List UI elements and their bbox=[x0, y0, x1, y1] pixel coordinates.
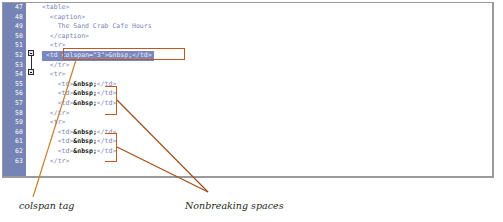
line-number: 55 bbox=[3, 80, 26, 90]
fold-marker-line-53[interactable] bbox=[28, 69, 34, 75]
code-line[interactable]: <td colspan="3">&nbsp;</td> bbox=[38, 51, 492, 61]
code-line-text-selected: <td colspan="3">&nbsp;</td> bbox=[42, 51, 154, 61]
code-line[interactable]: </tr> bbox=[38, 61, 492, 71]
code-line[interactable]: </tr> bbox=[38, 157, 492, 167]
fold-marker-line-51[interactable] bbox=[28, 50, 34, 56]
code-line[interactable]: </tr> bbox=[38, 109, 492, 119]
line-number: 57 bbox=[3, 99, 26, 109]
nbsp-entity: &nbsp; bbox=[73, 128, 96, 136]
line-number: 49 bbox=[3, 22, 26, 32]
line-number: 53 bbox=[3, 61, 26, 71]
line-number-gutter: 4748495051525354555657585960616263 bbox=[3, 3, 27, 176]
line-number: 50 bbox=[3, 32, 26, 42]
line-number: 51 bbox=[3, 41, 26, 51]
line-number: 54 bbox=[3, 70, 26, 80]
code-line[interactable]: The Sand Crab Cafe Hours bbox=[38, 22, 492, 32]
code-line[interactable]: <td>&nbsp;</td> bbox=[38, 137, 492, 147]
code-line[interactable]: <td>&nbsp;</td> bbox=[38, 128, 492, 138]
code-line[interactable]: <td>&nbsp;</td> bbox=[38, 89, 492, 99]
code-editor-panel: 4748495051525354555657585960616263 <tabl… bbox=[2, 2, 494, 178]
line-number: 58 bbox=[3, 109, 26, 119]
code-fold-margin bbox=[27, 3, 38, 176]
annotation-label-colspan: colspan tag bbox=[19, 200, 74, 211]
line-number: 59 bbox=[3, 118, 26, 128]
code-line[interactable]: <tr> bbox=[38, 41, 492, 51]
code-line[interactable]: <td>&nbsp;</td> bbox=[38, 99, 492, 109]
line-number: 56 bbox=[3, 89, 26, 99]
line-number: 47 bbox=[3, 3, 26, 13]
code-line[interactable]: <caption> bbox=[38, 13, 492, 23]
line-number: 61 bbox=[3, 137, 26, 147]
nbsp-entity: &nbsp; bbox=[73, 80, 96, 88]
line-number: 52 bbox=[3, 51, 26, 61]
code-line[interactable]: <tr> bbox=[38, 70, 492, 80]
nbsp-entity: &nbsp; bbox=[73, 137, 96, 145]
nbsp-entity: &nbsp; bbox=[73, 99, 96, 107]
line-number: 60 bbox=[3, 128, 26, 138]
code-text-area[interactable]: <table> <caption> The Sand Crab Cafe Hou… bbox=[38, 3, 492, 176]
line-number: 63 bbox=[3, 157, 26, 167]
nbsp-entity: &nbsp; bbox=[73, 147, 96, 155]
code-line[interactable]: <table> bbox=[38, 3, 492, 13]
code-line[interactable]: <td>&nbsp;</td> bbox=[38, 147, 492, 157]
code-line[interactable]: </caption> bbox=[38, 32, 492, 42]
nbsp-entity: &nbsp; bbox=[73, 89, 96, 97]
line-number: 48 bbox=[3, 13, 26, 23]
code-line[interactable]: <tr> bbox=[38, 118, 492, 128]
annotation-label-nonbreaking-spaces: Nonbreaking spaces bbox=[185, 200, 284, 211]
code-line[interactable]: <td>&nbsp;</td> bbox=[38, 80, 492, 90]
line-number: 62 bbox=[3, 147, 26, 157]
